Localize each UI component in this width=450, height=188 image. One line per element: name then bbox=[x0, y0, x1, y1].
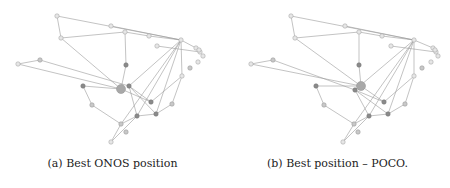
graph-node bbox=[433, 48, 437, 52]
graph-edge bbox=[111, 124, 121, 142]
graph-node bbox=[389, 44, 393, 48]
graph-node bbox=[109, 140, 113, 144]
graph-node bbox=[420, 66, 424, 70]
graph-node bbox=[109, 24, 113, 28]
graph-node bbox=[38, 58, 42, 62]
graph-node bbox=[123, 30, 127, 34]
graph-edge bbox=[61, 32, 125, 38]
graph-node bbox=[196, 60, 200, 64]
graph-node bbox=[170, 102, 174, 106]
graph-node bbox=[367, 114, 371, 118]
network-topology-graph-b bbox=[225, 0, 450, 150]
graph-edge bbox=[181, 40, 196, 48]
graph-node bbox=[353, 88, 357, 92]
graph-node bbox=[412, 74, 416, 78]
graph-edge bbox=[137, 114, 156, 116]
graph-node bbox=[16, 62, 20, 66]
graph-node bbox=[154, 112, 158, 116]
graph-edge bbox=[295, 32, 359, 38]
graph-node bbox=[59, 36, 63, 40]
graph-edge bbox=[316, 86, 324, 105]
graph-node bbox=[155, 44, 159, 48]
graph-edge bbox=[355, 90, 369, 116]
graph-node bbox=[380, 34, 384, 38]
graph-node bbox=[201, 54, 205, 58]
subfigure-b: (b) Best position – POCO. bbox=[225, 0, 450, 188]
graph-node bbox=[386, 112, 390, 116]
graph-node bbox=[197, 48, 201, 52]
graph-node bbox=[119, 122, 123, 126]
graph-node bbox=[322, 103, 326, 107]
graph-node bbox=[127, 84, 131, 88]
graph-node bbox=[55, 14, 59, 18]
graph-node bbox=[429, 60, 433, 64]
graph-edge bbox=[291, 16, 295, 38]
graph-node bbox=[289, 14, 293, 18]
graph-edge bbox=[40, 60, 129, 86]
graph-node bbox=[314, 84, 318, 88]
graph-node bbox=[249, 62, 253, 66]
graph-node bbox=[357, 30, 361, 34]
graph-edge bbox=[343, 116, 369, 142]
graph-edge bbox=[345, 26, 414, 40]
controller-node bbox=[357, 82, 366, 91]
graph-node bbox=[293, 36, 297, 40]
graph-node bbox=[124, 130, 128, 134]
graph-edge bbox=[251, 60, 273, 64]
graph-node bbox=[188, 66, 192, 70]
controller-node bbox=[117, 85, 126, 94]
graph-node bbox=[341, 140, 345, 144]
graph-edge bbox=[388, 104, 405, 114]
graph-node bbox=[271, 58, 275, 62]
graph-edge bbox=[391, 46, 436, 52]
graph-node bbox=[124, 63, 128, 67]
graph-edge bbox=[369, 114, 388, 116]
caption-a: (a) Best ONOS position bbox=[0, 157, 225, 170]
graph-node bbox=[356, 130, 360, 134]
graph-edge bbox=[121, 40, 181, 124]
graph-node bbox=[436, 54, 440, 58]
graph-edge bbox=[354, 116, 369, 124]
graph-edge bbox=[156, 104, 172, 114]
graph-edge bbox=[111, 26, 181, 40]
graph-edge bbox=[384, 76, 414, 102]
graph-edge bbox=[295, 38, 361, 86]
graph-edge bbox=[414, 40, 433, 48]
graph-edge bbox=[251, 64, 361, 86]
graph-node bbox=[147, 34, 151, 38]
graph-edge bbox=[181, 40, 182, 76]
network-topology-graph-a bbox=[0, 0, 225, 150]
graph-node bbox=[149, 100, 153, 104]
graph-node bbox=[412, 38, 416, 42]
graph-node bbox=[403, 102, 407, 106]
graph-node bbox=[179, 38, 183, 42]
graph-edge bbox=[121, 116, 137, 124]
graph-edge bbox=[18, 64, 121, 89]
subfigure-a: (a) Best ONOS position bbox=[0, 0, 225, 188]
graph-node bbox=[81, 84, 85, 88]
graph-edge bbox=[125, 32, 126, 65]
graph-edge bbox=[61, 38, 121, 89]
graph-edge bbox=[57, 16, 61, 38]
graph-edge bbox=[324, 105, 354, 124]
graph-node bbox=[352, 122, 356, 126]
graph-node bbox=[135, 114, 139, 118]
graph-node bbox=[382, 100, 386, 104]
graph-edge bbox=[92, 105, 121, 124]
graph-node bbox=[180, 74, 184, 78]
graph-node bbox=[357, 63, 361, 67]
graph-node bbox=[90, 103, 94, 107]
graph-node bbox=[343, 24, 347, 28]
caption-b: (b) Best position – POCO. bbox=[225, 157, 450, 170]
graph-edge bbox=[18, 60, 40, 64]
graph-edge bbox=[83, 86, 92, 105]
